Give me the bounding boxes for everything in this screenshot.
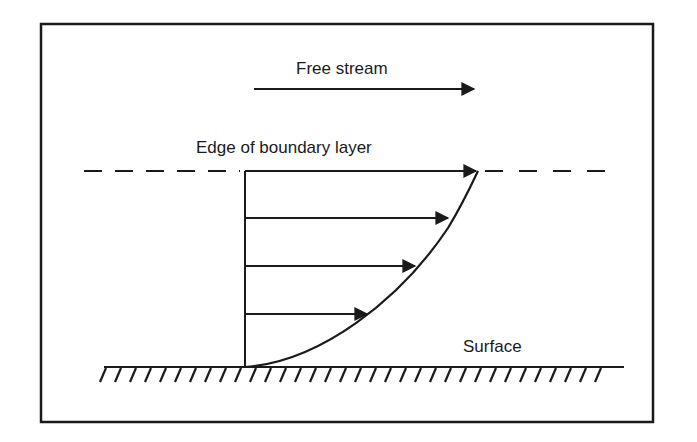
surface-label: Surface (463, 337, 522, 356)
boundary-layer-diagram: Free stream Edge of boundary layer Surfa… (0, 0, 697, 442)
surface-hatching (100, 368, 601, 382)
velocity-profile-curve (245, 171, 478, 367)
frame-border (41, 24, 653, 422)
free-stream-label: Free stream (296, 59, 388, 78)
edge-label: Edge of boundary layer (196, 138, 372, 157)
